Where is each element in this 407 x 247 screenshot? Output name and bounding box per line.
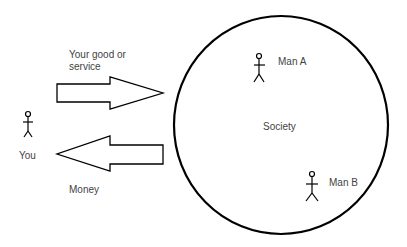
goods-arrow: [57, 77, 163, 109]
man-a-stick-figure-icon: [254, 54, 265, 83]
goods-label-line2: service: [69, 61, 101, 73]
diagram-canvas: [0, 0, 407, 247]
society-label: Society: [263, 121, 296, 133]
you-stick-figure-icon: [23, 112, 33, 138]
man-b-label: Man B: [329, 177, 358, 189]
you-label: You: [19, 150, 36, 162]
goods-label-line1: Your good or: [69, 49, 126, 61]
money-label: Money: [69, 184, 99, 196]
money-arrow: [57, 136, 163, 171]
man-a-label: Man A: [278, 56, 306, 68]
man-b-stick-figure-icon: [306, 172, 318, 202]
